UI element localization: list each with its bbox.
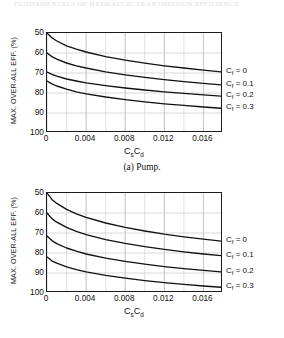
data-series-curve <box>47 193 222 241</box>
y-tick-label: 70 <box>18 67 44 77</box>
x-tick-label: 0.016 <box>192 294 213 303</box>
data-series-curve <box>47 236 222 272</box>
legend-motor: Cf = 0Cf = 0.1Cf = 0.2Cf = 0.3 <box>226 192 284 292</box>
data-series-curve <box>47 213 222 256</box>
data-series-curve <box>47 33 222 72</box>
y-tick-label: 60 <box>18 207 44 217</box>
x-axis-label-pump: CsCd <box>46 146 222 158</box>
x-tick-label: 0 <box>44 134 49 143</box>
plot-canvas-motor <box>47 193 222 292</box>
figure-pump: MAX. OVER-ALL EFF. (%) 1009080706050 00.… <box>0 12 284 160</box>
x-tick-label: 0.004 <box>75 134 96 143</box>
x-tick-label: 0.004 <box>75 294 96 303</box>
x-tick-label: 0 <box>44 294 49 303</box>
y-tick-label: 60 <box>18 47 44 57</box>
data-series-curve <box>47 257 222 287</box>
y-tick-label: 80 <box>18 247 44 257</box>
legend-item: Cf = 0.1 <box>226 79 254 90</box>
running-header: FUNDAMENTALS OF HYDRAULIC TRANSMISSION E… <box>14 0 272 8</box>
legend-item: Cf = 0.3 <box>226 102 254 113</box>
plot-area-pump <box>46 32 222 132</box>
figure-motor: MAX. OVER-ALL EFF. (%) 1009080706050 00.… <box>0 172 284 332</box>
y-tick-labels-pump: 1009080706050 <box>16 32 44 132</box>
x-tick-labels-motor: 00.0040.0080.0120.016 <box>46 294 222 306</box>
legend-item: Cf = 0.1 <box>226 250 254 261</box>
x-tick-label: 0.012 <box>153 294 174 303</box>
y-tick-label: 100 <box>18 127 44 137</box>
figure-page: FUNDAMENTALS OF HYDRAULIC TRANSMISSION E… <box>0 0 284 338</box>
legend-item: Cf = 0 <box>226 66 247 77</box>
y-tick-labels-motor: 1009080706050 <box>16 192 44 292</box>
x-tick-label: 0.008 <box>114 134 135 143</box>
x-tick-labels-pump: 00.0040.0080.0120.016 <box>46 134 222 146</box>
caption-pump: (a) Pump. <box>0 162 284 172</box>
legend-item: Cf = 0.3 <box>226 281 254 292</box>
y-tick-label: 90 <box>18 267 44 277</box>
y-tick-label: 100 <box>18 287 44 297</box>
y-tick-label: 70 <box>18 227 44 237</box>
y-tick-label: 50 <box>18 27 44 37</box>
legend-item: Cf = 0 <box>226 235 247 246</box>
x-axis-label-text: CsCd <box>124 306 144 316</box>
x-tick-label: 0.016 <box>192 134 213 143</box>
y-tick-label: 80 <box>18 87 44 97</box>
plot-canvas-pump <box>47 33 222 132</box>
x-tick-label: 0.008 <box>114 294 135 303</box>
plot-area-motor <box>46 192 222 292</box>
y-tick-label: 90 <box>18 107 44 117</box>
x-tick-label: 0.012 <box>153 134 174 143</box>
legend-pump: Cf = 0Cf = 0.1Cf = 0.2Cf = 0.3 <box>226 32 284 132</box>
legend-item: Cf = 0.2 <box>226 266 254 277</box>
x-axis-label-text: CsCd <box>124 146 144 156</box>
legend-item: Cf = 0.2 <box>226 90 254 101</box>
y-tick-label: 50 <box>18 187 44 197</box>
x-axis-label-motor: CsCd <box>46 306 222 318</box>
